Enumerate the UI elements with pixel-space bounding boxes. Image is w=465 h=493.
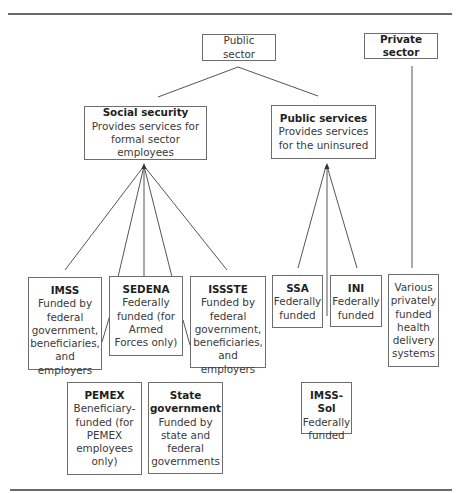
node-issste: ISSSTE Funded by federal government, ben… — [190, 276, 266, 368]
node-state-government: State government Funded by state and fed… — [148, 382, 223, 474]
node-title: ISSSTE — [208, 283, 248, 296]
arrowhead-icon — [142, 163, 147, 169]
node-title: IMSS-Sol — [305, 389, 348, 416]
node-ssa: SSA Federally funded — [272, 275, 323, 328]
node-title: Public sector — [206, 34, 272, 61]
node-title: IMSS — [51, 284, 80, 297]
edge-public-to-services — [238, 67, 318, 96]
node-public-services: Public services Provides services for th… — [271, 105, 376, 159]
node-title: INI — [348, 282, 364, 295]
edge-services-to-ssa — [298, 166, 326, 268]
node-public-sector: Public sector — [202, 34, 276, 61]
edge-public-to-social — [158, 67, 238, 97]
node-private-systems: Various privately funded health delivery… — [388, 274, 439, 367]
node-pemex: PEMEX Beneficiary-funded (for PEMEX empl… — [67, 382, 142, 475]
node-title: Social security — [103, 106, 189, 119]
node-desc: Federally funded — [303, 416, 350, 443]
node-desc: Federally funded (for Armed Forces only) — [113, 296, 179, 349]
node-imss: IMSS Funded by federal government, benef… — [28, 277, 102, 370]
node-desc: Various privately funded health delivery… — [391, 281, 437, 361]
edge-sedena-issste-link — [183, 320, 190, 345]
node-title: Public services — [280, 112, 367, 125]
node-private-sector: Private sector — [364, 33, 438, 59]
node-desc: Beneficiary-funded (for PEMEX employees … — [71, 402, 138, 468]
node-desc: Provides services for formal sector empl… — [88, 120, 203, 160]
edge-social-fan-4 — [144, 166, 172, 277]
node-title: State government — [150, 389, 221, 416]
node-title: SEDENA — [122, 283, 169, 296]
node-title: SSA — [286, 282, 309, 295]
node-title: PEMEX — [84, 389, 124, 402]
node-desc: Federally funded — [332, 295, 379, 322]
node-desc: Funded by federal government, beneficiar… — [30, 297, 100, 377]
edge-services-to-ini — [327, 166, 357, 268]
node-sedena: SEDENA Federally funded (for Armed Force… — [109, 276, 183, 356]
node-desc: Federally funded — [274, 295, 321, 322]
node-imss-sol: IMSS-Sol Federally funded — [301, 382, 352, 434]
node-social-security: Social security Provides services for fo… — [84, 106, 207, 160]
node-title: Private sector — [368, 33, 434, 60]
node-desc: Funded by federal government, beneficiar… — [193, 296, 263, 376]
node-desc: Provides services for the uninsured — [275, 125, 372, 152]
node-ini: INI Federally funded — [330, 275, 382, 327]
edge-social-to-issste — [144, 166, 227, 270]
node-desc: Funded by state and federal governments — [151, 416, 220, 469]
arrowhead-icon — [325, 163, 330, 169]
